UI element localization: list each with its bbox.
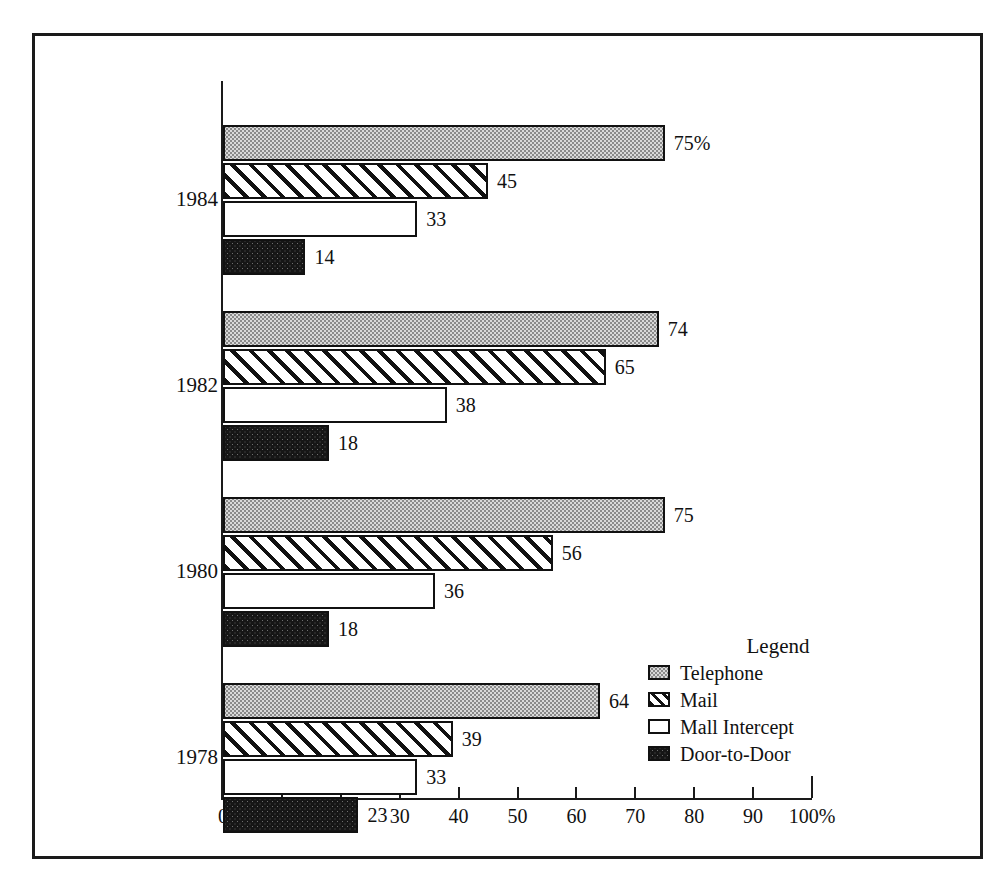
- value-label-1980-mail: 56: [562, 542, 582, 564]
- value-label-1980-telephone: 75: [674, 504, 694, 526]
- value-label-1978-mail: 39: [462, 728, 482, 750]
- legend: Legend TelephoneMailMall InterceptDoor-t…: [648, 633, 898, 767]
- value-label-1978-door-to-door: 23: [367, 804, 387, 826]
- legend-label-mall-intercept: Mall Intercept: [680, 715, 794, 739]
- value-label-1984-mail: 45: [497, 170, 517, 192]
- category-label-1984: 1984: [98, 187, 218, 211]
- legend-entry-mall-intercept[interactable]: Mall Intercept: [648, 713, 898, 740]
- legend-entry-mail[interactable]: Mail: [648, 686, 898, 713]
- legend-label-telephone: Telephone: [680, 661, 763, 685]
- category-label-1982: 1982: [98, 373, 218, 397]
- bar-1978-telephone: [223, 683, 600, 719]
- mall-intercept-swatch-icon: [648, 719, 670, 734]
- mail-swatch-icon: [648, 692, 670, 707]
- bar-1982-telephone: [223, 311, 659, 347]
- bar-group-1982: 198274653818: [35, 311, 986, 461]
- bar-1978-mall-intercept: [223, 759, 417, 795]
- value-label-1980-mall-intercept: 36: [444, 580, 464, 602]
- bar-1984-mall-intercept: [223, 201, 417, 237]
- bar-1984-telephone: [223, 125, 665, 161]
- legend-title: Legend: [678, 633, 878, 659]
- category-label-1978: 1978: [98, 745, 218, 769]
- bar-group-1984: 198475%453314: [35, 125, 986, 275]
- bar-1982-mall-intercept: [223, 387, 447, 423]
- value-label-1982-mail: 65: [615, 356, 635, 378]
- legend-label-door-to-door: Door-to-Door: [680, 742, 791, 766]
- value-label-1978-telephone: 64: [609, 690, 629, 712]
- category-label-1980: 1980: [98, 559, 218, 583]
- value-label-1978-mall-intercept: 33: [426, 766, 446, 788]
- door-to-door-swatch-icon: [648, 746, 670, 761]
- bar-1978-door-to-door: [223, 797, 358, 833]
- bar-1980-mail: [223, 535, 553, 571]
- bar-1984-mail: [223, 163, 488, 199]
- legend-entry-door-to-door[interactable]: Door-to-Door: [648, 740, 898, 767]
- value-label-1980-door-to-door: 18: [338, 618, 358, 640]
- bar-1982-door-to-door: [223, 425, 329, 461]
- bar-group-1980: 198075563618: [35, 497, 986, 647]
- value-label-1982-mall-intercept: 38: [456, 394, 476, 416]
- telephone-swatch-icon: [648, 665, 670, 680]
- legend-label-mail: Mail: [680, 688, 718, 712]
- plot-area: 0102030405060708090100% 198475%453314198…: [35, 36, 986, 862]
- legend-entries: TelephoneMailMall InterceptDoor-to-Door: [648, 659, 898, 767]
- value-label-1984-mall-intercept: 33: [426, 208, 446, 230]
- legend-entry-telephone[interactable]: Telephone: [648, 659, 898, 686]
- value-label-1984-door-to-door: 14: [314, 246, 334, 268]
- bar-1978-mail: [223, 721, 453, 757]
- bar-1980-telephone: [223, 497, 665, 533]
- bar-1984-door-to-door: [223, 239, 305, 275]
- value-label-1984-telephone: 75%: [674, 132, 711, 154]
- value-label-1982-telephone: 74: [668, 318, 688, 340]
- chart-frame: 0102030405060708090100% 198475%453314198…: [32, 33, 983, 859]
- value-label-1982-door-to-door: 18: [338, 432, 358, 454]
- bar-1982-mail: [223, 349, 606, 385]
- bar-1980-door-to-door: [223, 611, 329, 647]
- bar-1980-mall-intercept: [223, 573, 435, 609]
